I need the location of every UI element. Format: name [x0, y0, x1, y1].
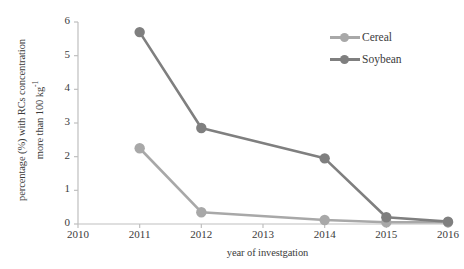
y-axis-title: percentage (%) with RCs concentration mo…	[15, 25, 49, 215]
x-tick-label: 2014	[301, 228, 349, 240]
data-point-cereal-2012[interactable]	[196, 207, 206, 217]
legend-label-soybean: Soybean	[360, 53, 402, 65]
legend-marker-cereal-icon	[330, 31, 360, 43]
data-point-cereal-2014[interactable]	[319, 215, 329, 225]
chart-legend: Cereal Soybean	[330, 26, 450, 70]
y-tick-label: 0	[48, 216, 70, 228]
y-tick-label: 3	[48, 115, 70, 127]
data-point-cereal-2011[interactable]	[134, 143, 144, 153]
x-tick-label: 2011	[116, 228, 164, 240]
series-line-cereal	[140, 148, 448, 222]
y-axis-title-superscript: -1	[31, 81, 40, 87]
x-tick-label: 2013	[239, 228, 287, 240]
data-point-soybean-2011[interactable]	[134, 27, 144, 37]
y-axis-title-line2-text: more than 100 kg	[34, 87, 45, 159]
x-tick-label: 2015	[362, 228, 410, 240]
x-axis-title: year of investgation	[78, 247, 457, 258]
legend-item-soybean[interactable]: Soybean	[330, 48, 450, 70]
data-point-soybean-2014[interactable]	[319, 153, 329, 163]
y-tick-label: 5	[48, 48, 70, 60]
x-tick-label: 2010	[54, 228, 102, 240]
y-axis-title-line1: percentage (%) with RCs concentration	[15, 25, 29, 215]
legend-label-cereal: Cereal	[360, 31, 392, 43]
y-tick-label: 4	[48, 81, 70, 93]
x-tick-label: 2012	[177, 228, 225, 240]
data-point-soybean-2015[interactable]	[381, 212, 391, 222]
y-axis-title-line2: more than 100 kg-1	[29, 25, 47, 215]
y-tick-label: 2	[48, 149, 70, 161]
legend-marker-soybean-icon	[330, 53, 360, 65]
data-point-soybean-2016[interactable]	[443, 216, 453, 226]
y-tick-label: 1	[48, 182, 70, 194]
x-tick-label: 2016	[424, 228, 464, 240]
y-tick-label: 6	[48, 14, 70, 26]
legend-item-cereal[interactable]: Cereal	[330, 26, 450, 48]
data-point-soybean-2012[interactable]	[196, 123, 206, 133]
